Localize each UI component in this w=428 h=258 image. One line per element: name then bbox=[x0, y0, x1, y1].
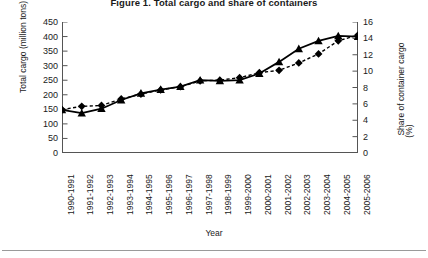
y-tick-label-left: 200 bbox=[32, 90, 58, 100]
x-tick-label: 1992-1993 bbox=[105, 174, 115, 215]
marker-triangle bbox=[275, 58, 283, 66]
y-tick-label-left: 350 bbox=[32, 46, 58, 56]
plot-area bbox=[62, 22, 358, 153]
x-tick-label: 1993-1994 bbox=[125, 174, 135, 215]
x-tick-label: 1997-1998 bbox=[204, 174, 214, 215]
x-tick-label: 2003-2004 bbox=[322, 174, 332, 215]
y-tick-label-right: 0 bbox=[363, 148, 385, 158]
series-line-2 bbox=[62, 35, 358, 110]
marker-diamond bbox=[78, 102, 86, 110]
x-tick-label: 1991-1992 bbox=[85, 174, 95, 215]
y-tick-label-right: 6 bbox=[363, 99, 385, 109]
x-tick-label: 1999-2000 bbox=[243, 174, 253, 215]
y-tick-label-left: 150 bbox=[32, 104, 58, 114]
y-axis-left-title: Total cargo (million tons) bbox=[18, 0, 28, 117]
x-tick-label: 1996-1997 bbox=[184, 174, 194, 215]
marker-diamond bbox=[275, 66, 283, 74]
y-tick-label-right: 16 bbox=[363, 17, 385, 27]
figure-container: Figure 1. Total cargo and share of conta… bbox=[0, 0, 428, 258]
marker-diamond bbox=[295, 59, 303, 67]
marker-diamond bbox=[137, 90, 145, 98]
marker-diamond bbox=[196, 77, 204, 85]
marker-diamond bbox=[315, 50, 323, 58]
x-tick-label: 2004-2005 bbox=[342, 174, 352, 215]
y-tick-label-right: 14 bbox=[363, 33, 385, 43]
plot-svg bbox=[62, 22, 358, 153]
x-tick-label: 1998-1999 bbox=[223, 174, 233, 215]
x-axis-title: Year bbox=[0, 228, 428, 238]
x-tick-label: 1995-1996 bbox=[164, 174, 174, 215]
bottom-divider bbox=[2, 250, 426, 251]
y-tick-label-left: 0 bbox=[32, 148, 58, 158]
y-tick-label-left: 400 bbox=[32, 32, 58, 42]
series-line-1 bbox=[62, 36, 358, 113]
x-tick-label: 1994-1995 bbox=[144, 174, 154, 215]
y-tick-label-left: 300 bbox=[32, 61, 58, 71]
y-tick-label-left: 450 bbox=[32, 17, 58, 27]
y-tick-label-left: 250 bbox=[32, 75, 58, 85]
y-tick-label-left: 50 bbox=[32, 133, 58, 143]
y-tick-label-right: 4 bbox=[363, 115, 385, 125]
x-tick-label: 2000-2001 bbox=[263, 174, 273, 215]
y-tick-label-right: 2 bbox=[363, 132, 385, 142]
x-tick-label: 2002-2003 bbox=[302, 174, 312, 215]
y-axis-right-unit: (%) bbox=[404, 111, 414, 151]
y-tick-label-right: 8 bbox=[363, 83, 385, 93]
y-tick-label-left: 100 bbox=[32, 119, 58, 129]
y-tick-label-right: 10 bbox=[363, 66, 385, 76]
x-tick-label: 1990-1991 bbox=[66, 174, 76, 215]
chart-title: Figure 1. Total cargo and share of conta… bbox=[0, 0, 428, 8]
y-tick-label-right: 12 bbox=[363, 50, 385, 60]
x-tick-label: 2001-2002 bbox=[283, 174, 293, 215]
x-tick-label: 2005-2006 bbox=[362, 174, 372, 215]
